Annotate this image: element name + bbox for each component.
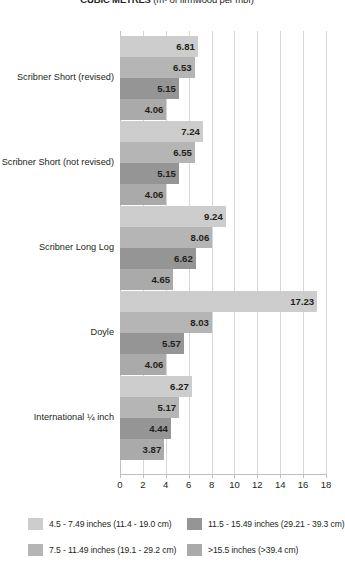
x-tick-label: 14 xyxy=(270,479,290,490)
bar-value-label: 3.87 xyxy=(121,439,161,460)
bar-row: 7.24 xyxy=(120,121,203,142)
bar-group: Scribner Short (revised)6.816.535.154.06 xyxy=(0,36,334,120)
bar-row: 5.57 xyxy=(120,333,184,354)
legend-swatch xyxy=(187,518,202,530)
bar-value-label: 6.53 xyxy=(152,57,192,78)
bar-group: Doyle17.238.035.574.06 xyxy=(0,291,334,375)
chart-legend: 4.5 - 7.49 inches (11.4 - 19.0 cm)11.5 -… xyxy=(0,512,334,572)
x-tick-label: 2 xyxy=(133,479,153,490)
x-tick-label: 6 xyxy=(179,479,199,490)
x-tick-mark xyxy=(257,474,258,478)
legend-label: >15.5 inches (>39.4 cm) xyxy=(208,542,298,558)
category-label: International ¼ inch xyxy=(0,412,114,423)
bar-row: 4.06 xyxy=(120,354,166,375)
bar-row: 8.06 xyxy=(120,227,212,248)
x-tick-label: 18 xyxy=(316,479,336,490)
bar-value-label: 8.06 xyxy=(169,227,209,248)
bar-row: 5.17 xyxy=(120,397,179,418)
x-tick-mark xyxy=(120,474,121,478)
x-tick-label: 10 xyxy=(224,479,244,490)
bar-value-label: 5.57 xyxy=(141,333,181,354)
x-axis-line xyxy=(120,474,326,475)
bar-row: 6.81 xyxy=(120,36,198,57)
legend-swatch xyxy=(187,544,202,556)
bar-row: 4.06 xyxy=(120,99,166,120)
bar-row: 6.55 xyxy=(120,142,195,163)
bar-group: Scribner Long Log9.248.066.624.65 xyxy=(0,206,334,290)
bar-row: 6.27 xyxy=(120,376,192,397)
x-tick-mark xyxy=(280,474,281,478)
bar-value-label: 8.03 xyxy=(169,312,209,333)
bar-value-label: 4.65 xyxy=(130,269,170,290)
legend-label: 7.5 - 11.49 inches (19.1 - 29.2 cm) xyxy=(49,542,176,558)
bar-row: 4.06 xyxy=(120,184,166,205)
bar-row: 5.15 xyxy=(120,78,179,99)
legend-label: 11.5 - 15.49 inches (29.21 - 39.3 cm) xyxy=(208,516,345,532)
bar-value-label: 6.27 xyxy=(149,376,189,397)
chart-plot-area: 024681012141618 Scribner Short (revised)… xyxy=(0,0,334,500)
bar-value-label: 7.24 xyxy=(160,121,200,142)
bar-row: 4.65 xyxy=(120,269,173,290)
bar-value-label: 6.62 xyxy=(153,248,193,269)
bar-value-label: 17.23 xyxy=(274,291,314,312)
x-tick-mark xyxy=(189,474,190,478)
x-tick-label: 8 xyxy=(202,479,222,490)
category-label: Scribner Short (not revised) xyxy=(0,157,114,168)
bar-row: 4.44 xyxy=(120,418,171,439)
x-tick-label: 12 xyxy=(247,479,267,490)
x-tick-label: 4 xyxy=(156,479,176,490)
category-label: Scribner Long Log xyxy=(0,242,114,253)
category-label: Doyle xyxy=(0,327,114,338)
x-tick-mark xyxy=(143,474,144,478)
legend-swatch xyxy=(28,518,43,530)
bar-row: 9.24 xyxy=(120,206,226,227)
bar-value-label: 4.06 xyxy=(123,99,163,120)
bar-value-label: 4.06 xyxy=(123,354,163,375)
x-tick-mark xyxy=(234,474,235,478)
bar-value-label: 5.17 xyxy=(136,397,176,418)
bar-value-label: 5.15 xyxy=(136,78,176,99)
bar-row: 17.23 xyxy=(120,291,317,312)
bar-value-label: 4.44 xyxy=(128,418,168,439)
bar-row: 6.53 xyxy=(120,57,195,78)
x-tick-mark xyxy=(303,474,304,478)
bar-row: 3.87 xyxy=(120,439,164,460)
x-tick-mark xyxy=(326,474,327,478)
x-tick-label: 0 xyxy=(110,479,130,490)
bar-value-label: 6.81 xyxy=(155,36,195,57)
bar-group: Scribner Short (not revised)7.246.555.15… xyxy=(0,121,334,205)
legend-swatch xyxy=(28,544,43,556)
bar-value-label: 5.15 xyxy=(136,163,176,184)
bar-value-label: 6.55 xyxy=(152,142,192,163)
bar-value-label: 9.24 xyxy=(183,206,223,227)
legend-label: 4.5 - 7.49 inches (11.4 - 19.0 cm) xyxy=(49,516,172,532)
x-tick-label: 16 xyxy=(293,479,313,490)
bar-group: International ¼ inch6.275.174.443.87 xyxy=(0,376,334,460)
category-label: Scribner Short (revised) xyxy=(0,72,114,83)
bar-row: 8.03 xyxy=(120,312,212,333)
bar-row: 5.15 xyxy=(120,163,179,184)
x-tick-mark xyxy=(212,474,213,478)
bar-value-label: 4.06 xyxy=(123,184,163,205)
x-tick-mark xyxy=(166,474,167,478)
bar-row: 6.62 xyxy=(120,248,196,269)
